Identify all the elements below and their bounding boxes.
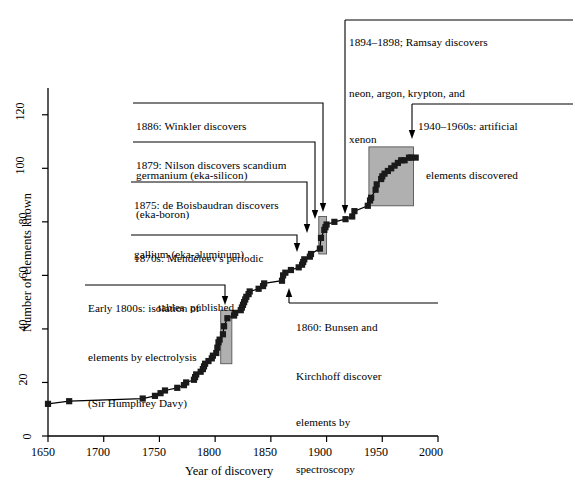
data-point [374,181,380,187]
data-point [349,213,355,219]
x-tick-label-1700: 1700 [86,445,110,460]
x-tick-label-1800: 1800 [197,445,221,460]
x-tick-label-1850: 1850 [253,445,277,460]
data-point [368,195,374,201]
x-tick-label-1750: 1750 [142,445,166,460]
annotation-mendeleev-line1: 1870s: Mendeleev's periodic [134,251,264,267]
data-point [66,398,72,404]
x-tick-label-1650: 1650 [31,445,55,460]
annotation-davy-line3: (Sir Humphrey Davy) [88,396,200,412]
data-point [373,187,379,193]
data-point [288,267,294,273]
data-point [365,203,371,209]
x-axis-title: Year of discovery [185,464,273,479]
data-point [213,350,219,356]
data-point [45,401,51,407]
annotation-bunsen: 1860: Bunsen and Kirchhoff discover elem… [296,289,382,488]
chart-figure: Number of elements known Year of discove… [0,0,575,488]
annotation-bunsen-line3: elements by [296,415,382,431]
annotation-artificial-line1: 1940–1960s: artificial [418,119,518,135]
y-tick-label-80: 80 [16,204,31,234]
annotation-davy-line2: elements by electrolysis [88,350,200,366]
data-point [323,221,329,227]
y-tick-label-100: 100 [13,151,28,181]
annotation-artificial: 1940–1960s: artificial elements discover… [418,88,518,214]
annotation-davy: Early 1800s: isolation of elements by el… [88,270,200,443]
data-point [342,216,348,222]
annotation-bunsen-line2: Kirchhoff discover [296,369,382,385]
y-tick-label-60: 60 [16,258,31,288]
y-tick-label-120: 120 [13,97,28,127]
annotation-artificial-line2: elements discovered [426,168,518,184]
annotation-davy-line1: Early 1800s: isolation of [88,301,200,317]
data-point [317,246,323,252]
data-point [308,251,314,257]
data-point [331,219,337,225]
data-point [301,256,307,262]
annotation-bunsen-line4: spectroscopy [296,462,382,478]
y-tick-label-20: 20 [16,365,31,395]
x-tick-label-2000: 2000 [419,445,443,460]
data-point [351,208,357,214]
chart-canvas [0,0,575,488]
data-point [279,278,285,284]
annotation-ramsay-line1: 1894–1898; Ramsay discovers [349,35,488,51]
annotation-bunsen-line1: 1860: Bunsen and [296,320,382,336]
y-tick-label-40: 40 [16,311,31,341]
annotation-boisbaudran-line1: 1875: de Boisbaudran discovers [134,198,279,214]
data-point [318,235,324,241]
data-point [282,270,288,276]
chart-background [0,0,575,488]
